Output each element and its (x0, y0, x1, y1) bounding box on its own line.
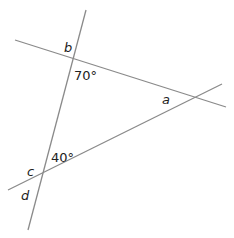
label-angle-70: 70° (74, 68, 97, 83)
label-c: c (27, 164, 34, 179)
line-lower (8, 84, 222, 190)
line-steep (28, 10, 86, 230)
line-upper (15, 40, 226, 107)
label-angle-40: 40° (51, 150, 74, 165)
label-a: a (162, 92, 170, 107)
label-d: d (21, 188, 30, 203)
triangle-diagram: b 70° a 40° c d (0, 0, 234, 238)
label-b: b (64, 40, 72, 55)
